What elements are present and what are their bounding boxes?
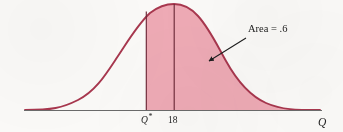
normal-curve-figure: Area = .6 Q * 18 Q — [0, 0, 343, 132]
tick-label-q-star-base: Q — [141, 115, 148, 125]
x-axis-variable-label: Q — [318, 116, 327, 128]
area-fill-path — [25, 4, 320, 110]
area-annotation-label: Area = .6 — [248, 23, 287, 34]
tick-label-q-star: Q * — [141, 112, 153, 125]
distribution-chart-canvas: Area = .6 Q * 18 Q — [0, 0, 343, 132]
shaded-area-region — [25, 4, 320, 110]
tick-label-18: 18 — [168, 115, 178, 125]
tick-label-q-star-asterisk: * — [149, 112, 153, 121]
